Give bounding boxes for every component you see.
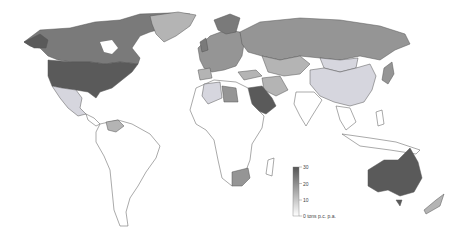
region-japan	[382, 62, 394, 84]
legend-tick-20: 20	[303, 181, 309, 187]
region-australia	[368, 148, 422, 196]
legend-zero-unit-label: 0 tons p.c. p.a.	[303, 213, 336, 219]
region-iberia	[198, 68, 212, 80]
world-choropleth-map: 30 20 10 0 tons p.c. p.a.	[0, 0, 460, 238]
region-russia	[240, 18, 410, 60]
region-greenland	[150, 12, 196, 42]
region-kazakhstan	[262, 56, 310, 76]
region-central-america	[86, 114, 100, 126]
region-india	[294, 92, 322, 126]
region-south-america	[96, 120, 160, 226]
region-tasmania	[396, 200, 402, 206]
region-turkey	[238, 70, 262, 80]
legend-tick-30: 30	[303, 164, 309, 170]
region-libya	[222, 86, 238, 102]
legend-gradient-bar	[293, 167, 299, 216]
legend-tick-10: 10	[303, 197, 309, 203]
legend: 30 20 10 0 tons p.c. p.a.	[293, 164, 336, 219]
region-philippines	[376, 110, 384, 126]
region-new-zealand	[424, 194, 444, 214]
region-madagascar	[266, 158, 274, 176]
region-southeast-asia	[336, 106, 356, 130]
region-scandinavia	[214, 14, 240, 34]
